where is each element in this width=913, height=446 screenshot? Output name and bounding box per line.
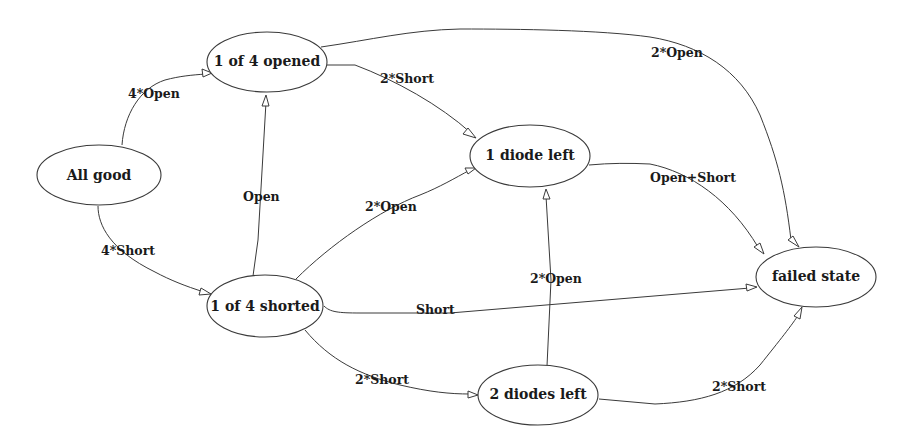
- node-failed-state[interactable]: failed state: [756, 247, 876, 307]
- node-1-of-4-opened[interactable]: 1 of 4 opened: [207, 32, 327, 92]
- arrowhead-icon: [468, 391, 478, 398]
- node-label-1-of-4-opened: 1 of 4 opened: [214, 53, 321, 69]
- arrowhead-icon: [262, 95, 269, 106]
- edge-label-2-short-right: 2*Short: [712, 379, 766, 394]
- arrowhead-icon: [199, 288, 211, 295]
- arrowhead-icon: [754, 243, 764, 254]
- arrowhead-icon: [788, 236, 799, 247]
- node-2-diodes-left[interactable]: 2 diodes left: [478, 365, 598, 425]
- edge-label-2-open-mid: 2*Open: [365, 199, 417, 214]
- edge-shorted-to-failed: [324, 284, 757, 313]
- edge-shorted-to-two-diodes: [305, 330, 478, 398]
- edge-label-2-open-top: 2*Open: [651, 45, 703, 60]
- node-label-2-diodes-left: 2 diodes left: [489, 386, 587, 402]
- edge-label-2-short-top: 2*Short: [380, 71, 434, 86]
- edge-label-open: Open: [243, 189, 280, 204]
- arrowhead-icon: [463, 128, 476, 138]
- edge-shorted-to-opened: [253, 95, 269, 276]
- edge-shorted-to-one-diode: [296, 168, 476, 279]
- edge-label-2-short-bottom: 2*Short: [355, 372, 409, 387]
- edge-label-open-plus-short: Open+Short: [650, 170, 736, 185]
- node-all-good[interactable]: All good: [37, 145, 161, 205]
- node-1-of-4-shorted[interactable]: 1 of 4 shorted: [207, 275, 323, 337]
- edge-all-good-to-opened: [122, 69, 212, 145]
- arrowhead-icon: [543, 189, 550, 199]
- node-label-failed-state: failed state: [772, 268, 860, 284]
- edge-two-diodes-to-failed: [599, 307, 802, 404]
- edge-label-4-open: 4*Open: [128, 86, 180, 101]
- state-diagram: 4*Open 4*Short Open 2*Short 2*Open 2*Ope…: [0, 0, 913, 446]
- node-label-all-good: All good: [66, 167, 132, 183]
- node-label-1-of-4-shorted: 1 of 4 shorted: [210, 298, 320, 314]
- arrowhead-icon: [746, 284, 757, 291]
- edge-label-2-open-vertical: 2*Open: [530, 271, 582, 286]
- edge-label-short: Short: [416, 302, 455, 317]
- node-label-1-diode-left: 1 diode left: [485, 147, 575, 163]
- arrowhead-icon: [465, 168, 476, 174]
- edge-label-4-short: 4*Short: [101, 243, 155, 258]
- node-1-diode-left[interactable]: 1 diode left: [470, 125, 590, 187]
- arrowhead-icon: [794, 307, 802, 319]
